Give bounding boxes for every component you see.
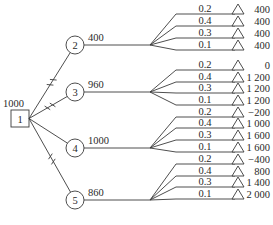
terminal-triangle-icon [232,4,244,14]
chance-node-id: 2 [72,40,77,51]
terminal-triangle-icon [232,130,244,140]
branch-edge-3 [29,96,67,118]
terminal-triangle-icon [232,154,244,164]
decision-node: 1 1000 [3,98,29,127]
chance-node-id: 4 [72,143,78,154]
chance-node-value: 960 [88,79,104,90]
outcome-probability: 0.2 [198,153,211,164]
terminal-triangle-icon [232,83,244,93]
branch-edge-4 [29,119,67,144]
outcome-probability: 0.2 [198,59,211,70]
chance-node-group-4: 410000.2−2000.41 0000.31 6000.11 600 [29,106,270,157]
outcome-payoff: 400 [254,16,270,27]
outcome-payoff: 1 600 [246,130,270,141]
outcome-probability: 0.4 [198,117,212,128]
outcome-payoff: 400 [254,40,270,51]
outcome-payoff: 400 [254,28,270,39]
branch-edge-2 [29,53,70,119]
outcome-payoff: 1 200 [246,95,270,106]
outcome-payoff: 0 [265,60,270,71]
outcome-branch: 0.12 000 [150,188,270,200]
outcome-payoff: −400 [248,154,270,165]
decision-node-id: 1 [17,114,22,125]
outcome-payoff: 400 [254,4,270,15]
outcome-probability: 0.4 [198,165,212,176]
branch-edge-5 [29,119,71,193]
outcome-payoff: 2 000 [246,189,270,200]
chance-node-id: 5 [72,195,77,206]
outcome-payoff: −200 [248,107,270,118]
outcome-payoff: 1 600 [246,142,270,153]
chance-node-id: 3 [72,87,77,98]
outcome-payoff: 1 200 [246,72,270,83]
outcome-probability: 0.2 [198,106,211,117]
terminal-triangle-icon [232,107,244,117]
outcome-probability: 0.1 [198,188,211,199]
outcome-probability: 0.1 [198,141,211,152]
outcome-probability: 0.1 [198,94,211,105]
terminal-triangle-icon [232,40,244,50]
outcome-payoff: 1 400 [246,177,270,188]
outcome-probability: 0.4 [198,71,212,82]
outcome-probability: 0.1 [198,39,211,50]
terminal-triangle-icon [232,16,244,26]
outcome-probability: 0.3 [198,129,211,140]
chance-node-value: 400 [88,32,104,43]
outcome-payoff: 1 200 [246,83,270,94]
chance-node-value: 1000 [88,135,109,146]
chance-node-group-5: 58600.2−4000.48000.31 4000.12 000 [29,119,270,210]
decision-tree-diagram: 1 1000 24000.24000.44000.34000.140039600… [0,0,273,225]
terminal-triangle-icon [232,60,244,70]
outcome-probability: 0.4 [198,15,212,26]
chance-node-group-3: 39600.200.41 2000.31 2000.11 200 [29,59,270,119]
outcome-probability: 0.2 [198,3,211,14]
outcome-probability: 0.3 [198,27,211,38]
outcome-probability: 0.3 [198,82,211,93]
terminal-triangle-icon [232,166,244,176]
outcome-probability: 0.3 [198,176,211,187]
terminal-triangle-icon [232,28,244,38]
outcome-payoff: 1 000 [246,118,270,129]
outcome-payoff: 800 [254,166,270,177]
terminal-triangle-icon [232,95,244,105]
terminal-triangle-icon [232,177,244,187]
terminal-triangle-icon [232,118,244,128]
terminal-triangle-icon [232,142,244,152]
chance-node-value: 860 [88,187,104,198]
terminal-triangle-icon [232,72,244,82]
outcome-branch: 0.11 200 [150,92,270,106]
terminal-triangle-icon [232,189,244,199]
decision-node-value: 1000 [3,98,24,109]
outcome-branch: 0.31 200 [150,82,270,94]
outcome-branch: 0.1400 [150,39,270,51]
